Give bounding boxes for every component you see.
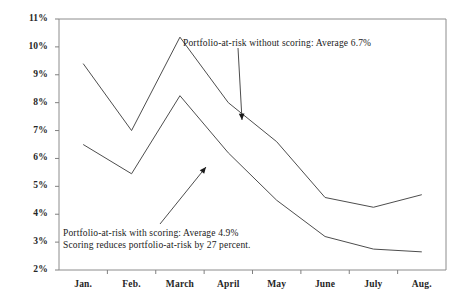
annotation-with-scoring: Portfolio-at-risk with scoring: Average …	[63, 227, 251, 251]
y-axis-tick-label: 2%	[18, 264, 48, 274]
annotation-arrows	[160, 48, 245, 224]
y-axis-tick-label: 6%	[18, 152, 48, 162]
y-axis-tick-label: 5%	[18, 180, 48, 190]
y-axis-tick-label: 9%	[18, 69, 48, 79]
annotation-with-scoring-arrow-line	[160, 167, 206, 224]
y-axis-tick-label: 11%	[18, 13, 48, 23]
y-axis-tick-label: 10%	[18, 41, 48, 51]
x-axis-tick-label: Aug.	[392, 279, 452, 289]
chart-series-lines	[83, 37, 422, 252]
y-axis-ticks	[55, 19, 59, 270]
annotation-without-scoring-arrow-head	[239, 113, 245, 120]
series-line-1	[83, 37, 422, 207]
annotation-with-scoring-line-1: Portfolio-at-risk with scoring: Average …	[63, 227, 251, 239]
y-axis-tick-label: 8%	[18, 97, 48, 107]
annotation-without-scoring-arrow-line	[238, 48, 242, 120]
annotation-without-scoring: Portfolio-at-risk without scoring: Avera…	[183, 37, 371, 49]
annotation-with-scoring-arrow-head	[200, 167, 206, 174]
y-axis-tick-label: 3%	[18, 236, 48, 246]
x-axis-ticks	[107, 270, 397, 274]
y-axis-tick-label: 4%	[18, 208, 48, 218]
portfolio-at-risk-chart: 11%10%9%8%7%6%5%4%3%2% Jan.Feb.MarchApri…	[0, 0, 457, 302]
annotation-with-scoring-line-2: Scoring reduces portfolio-at-risk by 27 …	[63, 239, 251, 251]
annotation-without-scoring-line-1: Portfolio-at-risk without scoring: Avera…	[183, 37, 371, 49]
y-axis-tick-label: 7%	[18, 125, 48, 135]
